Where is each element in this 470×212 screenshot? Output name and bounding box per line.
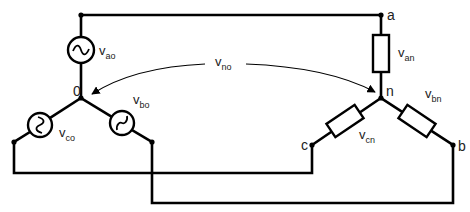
ac-source-icon bbox=[68, 37, 94, 63]
resistor-icon bbox=[373, 35, 389, 72]
ac-source-icon bbox=[110, 111, 134, 135]
resistor-icon bbox=[398, 105, 435, 137]
label-v-bo: vbo bbox=[133, 92, 150, 110]
label-v-bn: vbn bbox=[425, 86, 442, 104]
circuit-svg: 0 n a b c vao vbo vco van vbn vcn vno bbox=[0, 0, 470, 212]
ac-source-icon bbox=[28, 113, 52, 137]
label-v-an: van bbox=[398, 45, 415, 63]
node-label-n: n bbox=[386, 83, 394, 99]
resistor-icon bbox=[326, 105, 363, 137]
node-label-c: c bbox=[301, 137, 308, 153]
label-v-no: vno bbox=[215, 54, 232, 72]
junction-dots bbox=[11, 12, 455, 147]
node-label-a: a bbox=[387, 7, 395, 23]
double-arrow-icon bbox=[92, 64, 375, 94]
circuit-diagram: 0 n a b c vao vbo vco van vbn vcn vno bbox=[0, 0, 470, 212]
label-v-cn: vcn bbox=[359, 127, 375, 145]
label-v-ao: vao bbox=[99, 43, 116, 61]
label-v-co: vco bbox=[59, 125, 75, 143]
wire-phase-a bbox=[81, 15, 381, 98]
node-label-0: 0 bbox=[73, 83, 81, 99]
node-label-b: b bbox=[458, 138, 466, 154]
wire-phase-b-source bbox=[81, 98, 453, 203]
